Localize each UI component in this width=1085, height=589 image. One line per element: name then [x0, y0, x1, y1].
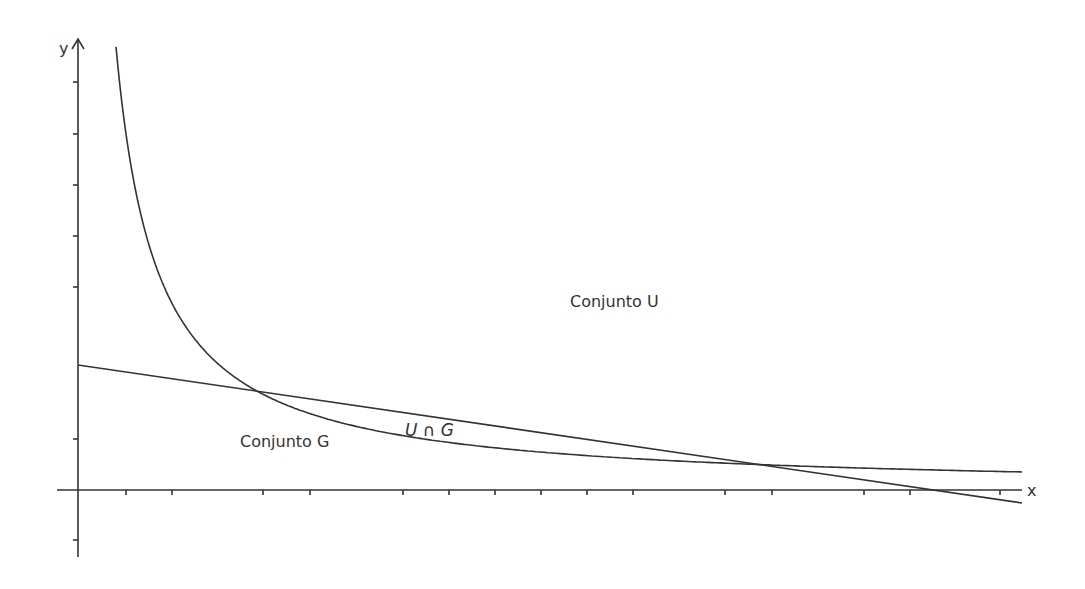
hyperbola-curve: [116, 47, 1022, 472]
intersection-label: U ∩ G: [405, 420, 454, 440]
set-u-label: Conjunto U: [570, 292, 659, 311]
x-axis-label: x: [1027, 481, 1036, 500]
diagram-canvas: x y Conjunto U Conjunto G U ∩ G: [0, 0, 1085, 589]
axes: [57, 39, 1022, 557]
straight-line: [78, 365, 1022, 503]
y-axis-label: y: [59, 39, 68, 58]
set-g-label: Conjunto G: [240, 432, 329, 451]
